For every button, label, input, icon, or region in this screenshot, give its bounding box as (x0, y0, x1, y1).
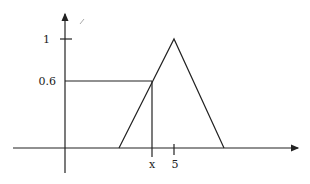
x-tick-label-5: 5 (172, 158, 179, 171)
y-tick-label-0.6: 0.6 (39, 75, 57, 88)
stray-mark (80, 19, 84, 24)
y-tick-label-1: 1 (43, 33, 50, 46)
triangle-membership-curve (119, 39, 224, 148)
x-tick-label-x: x (149, 158, 156, 171)
membership-function-diagram: 1 0.6 x 5 (0, 0, 310, 184)
